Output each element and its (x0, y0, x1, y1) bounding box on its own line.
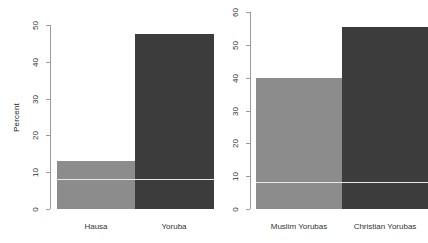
x-tick-label-christian-yorubas: Christian Yorubas (342, 222, 428, 231)
y-tick-right-20 (246, 143, 250, 144)
y-tick-right-60 (246, 12, 250, 13)
chart-panel-left: Percent 0 10 20 30 40 50 Hausa Yoruba (0, 0, 214, 243)
y-tick-label-left-0: 0 (31, 203, 40, 217)
y-tick-label-right-40: 40 (231, 72, 240, 86)
y-axis-line-left (50, 25, 51, 209)
y-tick-label-left-50: 50 (31, 19, 40, 33)
reference-line-right (256, 182, 428, 183)
y-tick-left-20 (46, 135, 50, 136)
y-tick-right-10 (246, 176, 250, 177)
bar-yoruba (135, 34, 214, 209)
bar-hausa (57, 161, 135, 209)
y-tick-right-40 (246, 78, 250, 79)
y-tick-right-30 (246, 111, 250, 112)
y-tick-label-left-40: 40 (31, 56, 40, 70)
y-tick-left-30 (46, 99, 50, 100)
two-panel-bar-chart-figure: Percent 0 10 20 30 40 50 Hausa Yoruba 0 (0, 0, 428, 243)
y-tick-right-0 (246, 209, 250, 210)
y-tick-label-right-50: 50 (231, 39, 240, 53)
bar-muslim-yorubas (256, 78, 342, 209)
y-tick-left-50 (46, 25, 50, 26)
plot-area-right (256, 12, 428, 209)
y-tick-left-0 (46, 209, 50, 210)
x-tick-label-muslim-yorubas: Muslim Yorubas (256, 222, 342, 231)
y-tick-right-50 (246, 45, 250, 46)
reference-line-left (57, 179, 214, 180)
x-tick-label-yoruba: Yoruba (134, 222, 214, 231)
y-tick-label-left-20: 20 (31, 129, 40, 143)
chart-panel-right: 0 10 20 30 40 50 60 Muslim Yorubas Chris… (214, 0, 428, 243)
x-tick-label-hausa: Hausa (56, 222, 136, 231)
y-tick-left-40 (46, 62, 50, 63)
y-axis-label-percent: Percent (12, 103, 21, 132)
y-axis-line-right (250, 12, 251, 209)
plot-area-left (57, 25, 214, 209)
y-tick-label-right-60: 60 (231, 6, 240, 20)
y-tick-label-right-30: 30 (231, 105, 240, 119)
y-tick-label-right-10: 10 (231, 170, 240, 184)
y-tick-left-10 (46, 172, 50, 173)
y-tick-label-left-10: 10 (31, 166, 40, 180)
y-tick-label-left-30: 30 (31, 93, 40, 107)
y-tick-label-right-20: 20 (231, 137, 240, 151)
y-tick-label-right-0: 0 (231, 203, 240, 217)
